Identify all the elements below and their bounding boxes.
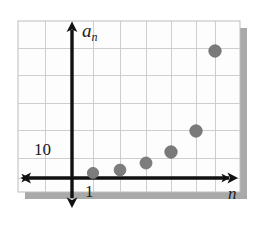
x-axis-label: n xyxy=(228,185,237,202)
data-point xyxy=(190,125,202,137)
y-tick-label-10: 10 xyxy=(34,141,51,158)
y-axis-label-base: a xyxy=(82,20,92,41)
data-point xyxy=(140,157,152,169)
y-axis-label: an xyxy=(82,21,98,43)
figure-canvas: an 10 1 n xyxy=(0,0,271,225)
y-axis-arrow-down xyxy=(67,198,78,209)
data-point xyxy=(114,164,126,176)
data-point xyxy=(87,167,98,178)
data-point xyxy=(209,45,221,57)
y-axis-label-subscript: n xyxy=(92,30,98,44)
data-point xyxy=(165,146,177,158)
x-tick-label-1: 1 xyxy=(85,183,94,200)
plot-background xyxy=(18,21,240,192)
